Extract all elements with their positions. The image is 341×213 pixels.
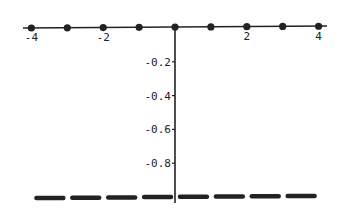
tick-labels: -0.2-0.4-0.6-0.8-4-224 <box>25 30 323 170</box>
data-point <box>243 23 250 30</box>
x-tick-label: -4 <box>25 31 39 44</box>
x-tick-label: -2 <box>97 31 110 44</box>
data-point <box>64 24 71 31</box>
chart: -0.2-0.4-0.6-0.8-4-224 <box>0 0 341 213</box>
data-point <box>315 23 322 30</box>
data-point <box>100 24 107 31</box>
y-tick-label: -0.8 <box>145 157 172 170</box>
x-tick-label: 4 <box>315 30 322 43</box>
data-point <box>136 24 143 31</box>
data-point <box>171 24 178 31</box>
axes <box>23 26 327 203</box>
y-tick-label: -0.2 <box>145 56 172 69</box>
y-tick-label: -0.4 <box>145 90 172 103</box>
data-point <box>207 23 214 30</box>
data-point <box>279 23 286 30</box>
y-tick-label: -0.6 <box>145 123 172 136</box>
x-tick-label: 2 <box>243 30 250 43</box>
data-point <box>28 24 35 31</box>
